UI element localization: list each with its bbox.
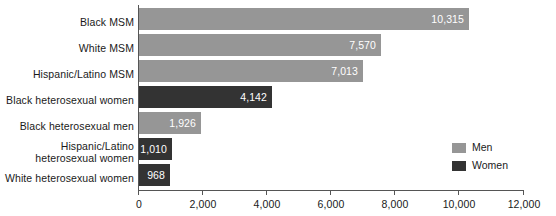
bar-value-label: 7,570 bbox=[349, 40, 376, 51]
bar-black-msm: 10,315 bbox=[139, 8, 469, 30]
x-axis-tick bbox=[394, 191, 395, 195]
legend-label: Women bbox=[472, 160, 508, 171]
bar-black-heterosexual-women: 4,142 bbox=[139, 86, 272, 108]
x-axis-tick bbox=[330, 191, 331, 195]
x-axis-line bbox=[138, 190, 524, 191]
x-axis-tick bbox=[138, 191, 139, 195]
x-axis-tick-label: 4,000 bbox=[254, 198, 281, 210]
category-label: Black heterosexual women bbox=[0, 95, 134, 107]
bar-value-label: 4,142 bbox=[240, 92, 267, 103]
legend-label: Men bbox=[472, 142, 492, 153]
bar-white-msm: 7,570 bbox=[139, 34, 381, 56]
x-axis-tick-label: 10,000 bbox=[443, 198, 476, 210]
x-axis-tick-label: 8,000 bbox=[382, 198, 409, 210]
bar-chart: Black MSM White MSM Hispanic/Latino MSM … bbox=[0, 0, 556, 216]
bar-black-heterosexual-men: 1,926 bbox=[139, 112, 201, 134]
x-axis-tick-label: 2,000 bbox=[190, 198, 217, 210]
bar-value-label: 1,926 bbox=[169, 118, 196, 129]
chart-legend: Men Women bbox=[452, 140, 508, 176]
legend-swatch-women bbox=[452, 161, 466, 171]
legend-item-men: Men bbox=[452, 140, 508, 155]
x-axis-tick-label: 6,000 bbox=[318, 198, 345, 210]
legend-item-women: Women bbox=[452, 158, 508, 173]
x-axis-tick bbox=[458, 191, 459, 195]
category-label: Black heterosexual men bbox=[0, 121, 134, 133]
bar-value-label: 1,010 bbox=[140, 144, 167, 155]
bar-value-label: 10,315 bbox=[431, 14, 464, 25]
x-axis-tick bbox=[523, 191, 524, 195]
x-axis-tick bbox=[202, 191, 203, 195]
category-label: White heterosexual women bbox=[0, 173, 134, 185]
category-label: White MSM bbox=[0, 43, 134, 55]
y-axis-line bbox=[138, 5, 139, 191]
category-label: Black MSM bbox=[0, 17, 134, 29]
bar-value-label: 7,013 bbox=[331, 66, 358, 77]
x-axis-tick-label: 12,000 bbox=[508, 198, 541, 210]
bar-hispanic-latino-heterosexual-women: 1,010 bbox=[139, 138, 172, 160]
x-axis-tick bbox=[266, 191, 267, 195]
bar-value-label: 968 bbox=[147, 170, 165, 181]
bar-hispanic-latino-msm: 7,013 bbox=[139, 60, 363, 82]
bar-white-heterosexual-women: 968 bbox=[139, 164, 170, 186]
legend-swatch-men bbox=[452, 143, 466, 153]
category-label: Hispanic/Latino heterosexual women bbox=[0, 141, 134, 164]
category-label: Hispanic/Latino MSM bbox=[0, 69, 134, 81]
x-axis-tick-label: 0 bbox=[136, 198, 142, 210]
